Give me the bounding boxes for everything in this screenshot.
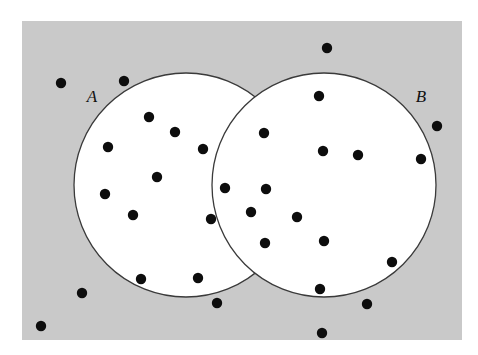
sample-point [432,121,442,131]
sample-point [246,207,256,217]
sample-point [318,146,328,156]
sample-point [319,236,329,246]
sample-point [119,76,129,86]
sample-point [56,78,66,88]
sample-point [198,144,208,154]
venn-diagram-figure: A B [0,0,478,355]
sample-point [103,142,113,152]
sample-point [292,212,302,222]
sample-point [353,150,363,160]
sample-point [314,91,324,101]
sample-point [317,328,327,338]
sample-point [128,210,138,220]
sample-point [206,214,216,224]
sample-point [152,172,162,182]
sample-point [261,184,271,194]
set-b-circle [212,73,436,297]
sample-point [260,238,270,248]
sample-point [387,257,397,267]
sample-point [315,284,325,294]
sample-point [259,128,269,138]
sample-point [416,154,426,164]
sample-point [170,127,180,137]
sample-point [322,43,332,53]
sample-point [144,112,154,122]
sample-point [36,321,46,331]
sample-point [193,273,203,283]
sample-point [220,183,230,193]
set-a-label: A [86,87,98,106]
sample-point [362,299,372,309]
venn-diagram-canvas: A B [0,0,478,355]
sample-point [77,288,87,298]
sample-point [100,189,110,199]
set-b-label: B [416,87,427,106]
sample-point [136,274,146,284]
sample-point [212,298,222,308]
